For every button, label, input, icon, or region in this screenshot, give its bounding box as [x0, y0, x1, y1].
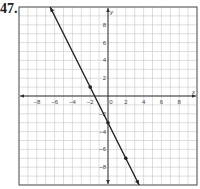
svg-text:−2: −2 — [87, 99, 95, 105]
svg-text:−4: −4 — [99, 129, 107, 135]
coordinate-graph: −8−6−4−2024688642−2−4−6−8 x y — [0, 0, 200, 189]
x-axis-label: x — [191, 89, 196, 95]
svg-text:6: 6 — [160, 99, 164, 105]
svg-text:2: 2 — [124, 99, 128, 105]
svg-text:8: 8 — [178, 99, 182, 105]
svg-text:−4: −4 — [69, 99, 77, 105]
svg-text:−6: −6 — [99, 146, 107, 152]
svg-text:4: 4 — [142, 99, 146, 105]
svg-text:0: 0 — [109, 99, 113, 105]
axes — [20, 8, 196, 184]
svg-text:−8: −8 — [33, 99, 41, 105]
svg-text:−8: −8 — [99, 164, 107, 170]
y-axis-label: y — [109, 9, 114, 15]
svg-text:−6: −6 — [51, 99, 59, 105]
